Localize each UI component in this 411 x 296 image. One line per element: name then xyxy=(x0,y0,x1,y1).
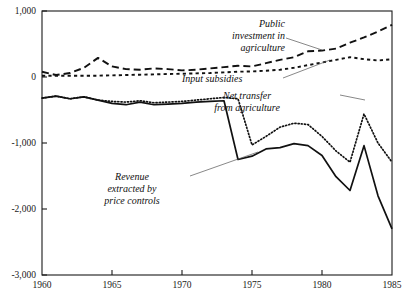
annotation-revenue: Revenue extracted by price controls xyxy=(103,171,160,206)
x-tick-label: 1960 xyxy=(33,280,52,290)
series-line-revenue-extracted-by-price-controls xyxy=(42,96,392,229)
revenue-label-line2: extracted by xyxy=(107,183,157,194)
y-tick-label: -3,000 xyxy=(11,270,36,280)
data-series-group xyxy=(42,25,392,229)
y-axis-ticks xyxy=(42,11,47,275)
public-investment-label-line3: agriculture xyxy=(240,42,285,53)
series-line-public-investment-in-agriculture xyxy=(42,25,392,75)
y-tick-label: 1,000 xyxy=(15,6,37,16)
x-tick-label: 1965 xyxy=(103,280,122,290)
line-chart-svg: 1,0000-1,000-2,000-3,000 196019651970197… xyxy=(0,0,411,296)
y-tick-label: -2,000 xyxy=(11,204,36,214)
x-tick-label: 1985 xyxy=(383,280,402,290)
revenue-label-line3: price controls xyxy=(103,195,160,206)
x-tick-label: 1980 xyxy=(313,280,332,290)
y-tick-label: -1,000 xyxy=(11,138,36,148)
y-tick-label: 0 xyxy=(31,72,36,82)
net-transfer-label-line1: Net transfer xyxy=(222,90,271,101)
public-investment-label-line1: Public xyxy=(258,18,286,29)
public-investment-label-line2: investment in xyxy=(232,30,285,41)
annotation-net-transfer: Net transfer from agriculture xyxy=(214,90,280,113)
net-transfer-label-line2: from agriculture xyxy=(214,102,280,113)
y-axis-tick-labels: 1,0000-1,000-2,000-3,000 xyxy=(11,6,36,280)
input-subsidies-label-line1: Input subsidies xyxy=(181,73,242,84)
annotation-public-investment: Public investment in agriculture xyxy=(232,18,286,53)
revenue-label-line1: Revenue xyxy=(114,171,149,182)
chart-figure: 1,0000-1,000-2,000-3,000 196019651970197… xyxy=(0,0,411,296)
x-tick-label: 1975 xyxy=(243,280,262,290)
x-axis-ticks xyxy=(112,270,322,275)
plot-frame xyxy=(42,11,392,275)
x-axis-tick-labels: 196019651970197519801985 xyxy=(33,280,402,290)
x-tick-label: 1970 xyxy=(173,280,192,290)
annotation-input-subsidies: Input subsidies xyxy=(181,73,242,84)
